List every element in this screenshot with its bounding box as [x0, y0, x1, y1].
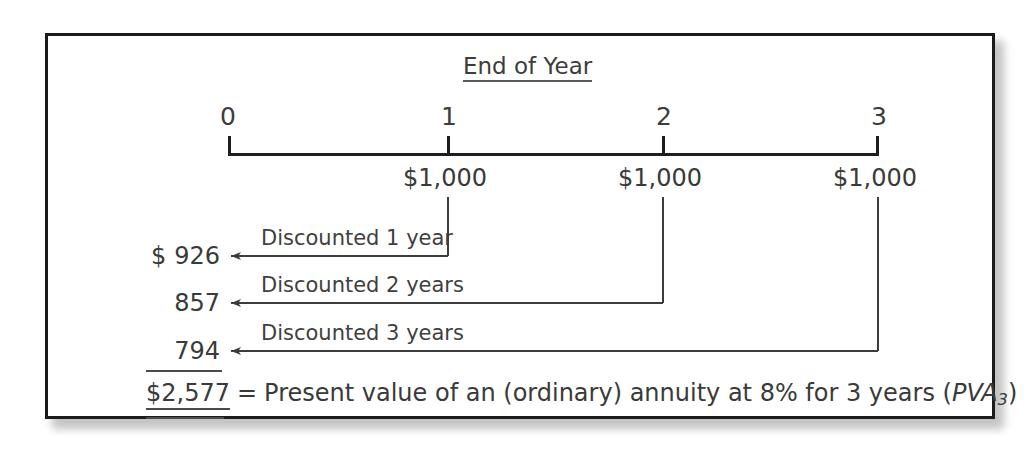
- total-description-after: ): [1008, 379, 1017, 407]
- present-value-year-2: 857: [158, 291, 220, 315]
- total-symbol: PVA: [952, 379, 998, 407]
- sum-rule: [146, 370, 222, 372]
- discount-label-1: Discounted 1 year: [261, 228, 453, 249]
- figure-panel: End of Year 0 1 2 3 $1,000 $1,000 $1,000: [45, 33, 995, 419]
- total-double-underline: [146, 408, 224, 419]
- total-description-before: Present value of an (ordinary) annuity a…: [264, 379, 952, 407]
- present-value-year-3: 794: [158, 339, 220, 363]
- total-equals: =: [237, 379, 257, 407]
- present-value-year-1: 926: [158, 244, 220, 268]
- diagram-stage: End of Year 0 1 2 3 $1,000 $1,000 $1,000: [48, 36, 992, 416]
- discount-label-3: Discounted 3 years: [261, 323, 464, 344]
- total-row: $2,577=Present value of an (ordinary) an…: [146, 381, 1017, 408]
- total-amount: $2,577: [146, 379, 230, 410]
- discount-label-2: Discounted 2 years: [261, 275, 464, 296]
- figure-canvas: End of Year 0 1 2 3 $1,000 $1,000 $1,000: [0, 0, 1032, 476]
- total-symbol-subscript: 3: [998, 390, 1008, 409]
